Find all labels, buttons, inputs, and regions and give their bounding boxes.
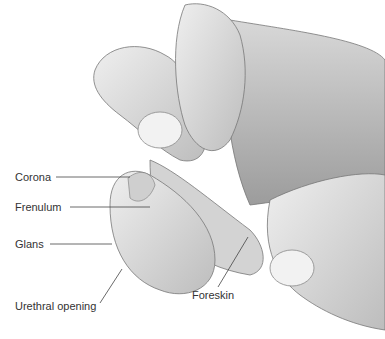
upper-thumbnail-shape [138,112,182,148]
label-corona: Corona [15,171,51,183]
label-glans: Glans [15,238,44,250]
label-frenulum: Frenulum [15,201,61,213]
glans-shape [110,171,215,294]
label-foreskin: Foreskin [192,289,234,301]
anatomical-diagram: Corona Frenulum Glans Urethral opening F… [0,0,385,339]
label-urethral-opening: Urethral opening [15,300,96,312]
lower-thumbnail-shape [270,250,314,286]
